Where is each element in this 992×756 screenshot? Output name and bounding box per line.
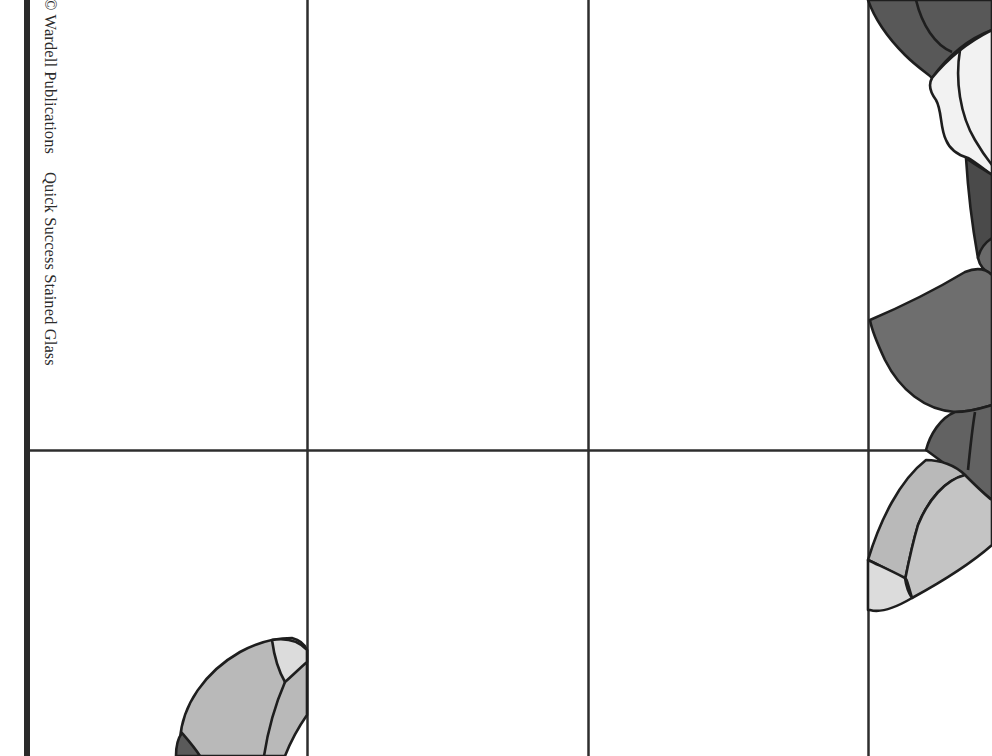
pattern-page: © Wardell PublicationsQuick Success Stai…	[0, 0, 992, 756]
pattern-artwork	[0, 0, 992, 756]
leaf-bottom-left	[176, 638, 307, 756]
grid-lines	[30, 0, 930, 756]
large-leaf	[870, 269, 992, 412]
flower-top-right	[868, 0, 992, 611]
